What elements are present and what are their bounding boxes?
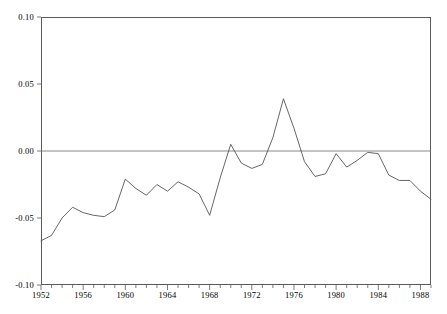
y-tick-label-text: -0.05 [0,213,34,223]
y-tick-label: 0.10 [0,12,34,23]
chart-figure: 0.100.050.00-0.05-0.10 19521956196019641… [0,0,447,314]
x-tick-label: 1980 [316,290,356,300]
x-tick-label: 1960 [105,290,145,300]
y-tick-label-text: 0.10 [0,12,34,22]
x-tick-label: 1972 [232,290,272,300]
x-minor-tick-marks [52,285,431,288]
y-tick-label-text: 0.05 [0,79,34,89]
x-tick-label: 1964 [147,290,187,300]
x-tick-label: 1984 [358,290,398,300]
y-tick-label: -0.10 [0,280,34,291]
x-tick-label: 1976 [274,290,314,300]
y-tick-label: 0.00 [0,146,34,157]
y-tick-label: -0.05 [0,213,34,224]
x-tick-label: 1952 [21,290,61,300]
data-series-line [41,99,431,241]
y-tick-label-text: 0.00 [0,146,34,156]
y-tick-label: 0.05 [0,79,34,90]
x-tick-label: 1968 [190,290,230,300]
x-tick-label: 1988 [400,290,440,300]
x-tick-label: 1956 [63,290,103,300]
y-tick-label-text: -0.10 [0,280,34,290]
y-tick-marks [37,17,41,285]
chart-svg [0,0,447,314]
